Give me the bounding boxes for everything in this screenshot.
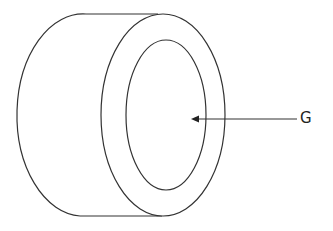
cylinder-back-arc <box>17 14 86 216</box>
hollow-cylinder-diagram <box>0 0 333 231</box>
label-g: G <box>300 109 312 127</box>
